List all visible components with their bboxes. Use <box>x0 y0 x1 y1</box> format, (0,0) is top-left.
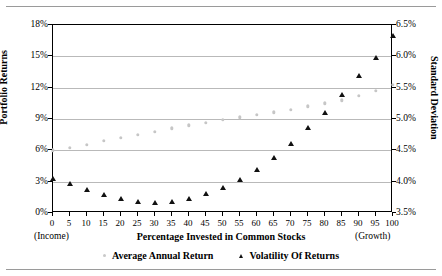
x-axis-note-income: (Income) <box>34 231 69 241</box>
y-axis-right-title: Standard Deviation <box>426 56 440 140</box>
x-axis-tick-label: 60 <box>252 218 261 228</box>
y-axis-right-tick-mark <box>392 55 396 56</box>
plot-area <box>52 24 392 212</box>
x-axis-tick-mark <box>69 212 70 216</box>
y-axis-right-tick-mark <box>392 87 396 88</box>
data-point-average-annual-return <box>272 111 275 114</box>
x-axis-note-growth: (Growth) <box>355 231 390 241</box>
y-axis-right-tick-label: 4.0% <box>396 176 416 186</box>
data-point-volatility-of-returns <box>288 141 294 146</box>
x-axis-tick-mark <box>358 212 359 216</box>
y-axis-right-tick-label: 6.0% <box>396 50 416 60</box>
y-axis-right-tick-mark <box>392 24 396 25</box>
x-axis-tick-mark <box>273 212 274 216</box>
y-axis-left-tick-mark <box>48 87 52 88</box>
y-axis-right-tick-label: 3.5% <box>396 207 416 217</box>
data-point-volatility-of-returns <box>220 185 226 190</box>
x-axis-tick-label: 70 <box>286 218 295 228</box>
x-axis-tick-label: 25 <box>133 218 142 228</box>
x-axis-tick-label: 50 <box>218 218 227 228</box>
bottom-divider-rule <box>6 269 436 270</box>
x-axis-tick-label: 10 <box>82 218 91 228</box>
y-axis-left-tick-mark <box>48 181 52 182</box>
data-point-average-annual-return <box>102 139 105 142</box>
x-axis-tick-mark <box>341 212 342 216</box>
data-point-average-annual-return <box>68 146 71 149</box>
y-axis-left-title: Portfolio Returns <box>0 50 12 125</box>
x-axis-tick-label: 20 <box>116 218 125 228</box>
data-point-average-annual-return <box>204 121 207 124</box>
y-axis-left-tick-mark <box>48 55 52 56</box>
x-axis-tick-label: 0 <box>50 218 55 228</box>
legend-item-average-annual-return: Average Annual Return <box>103 250 213 261</box>
x-axis-tick-label: 95 <box>371 218 380 228</box>
chart-legend: Average Annual Return Volatility Of Retu… <box>0 250 442 261</box>
x-axis-tick-mark <box>222 212 223 216</box>
triangle-marker-icon <box>239 254 243 258</box>
data-point-volatility-of-returns <box>390 33 396 38</box>
y-axis-left-tick-label: 18% <box>31 19 48 29</box>
y-axis-right-tick-label: 5.0% <box>396 113 416 123</box>
data-point-average-annual-return <box>119 136 122 139</box>
legend-label: Volatility Of Returns <box>249 250 339 261</box>
data-point-volatility-of-returns <box>237 177 243 182</box>
x-axis-tick-mark <box>239 212 240 216</box>
data-point-volatility-of-returns <box>186 196 192 201</box>
x-axis-tick-mark <box>86 212 87 216</box>
y-axis-left-tick-mark <box>48 24 52 25</box>
data-point-volatility-of-returns <box>254 167 260 172</box>
data-point-average-annual-return <box>323 102 326 105</box>
x-axis-tick-mark <box>205 212 206 216</box>
x-axis-tick-mark <box>375 212 376 216</box>
x-axis-tick-label: 85 <box>337 218 346 228</box>
data-point-volatility-of-returns <box>305 125 311 130</box>
data-point-average-annual-return <box>255 113 258 116</box>
x-axis-tick-label: 90 <box>354 218 363 228</box>
data-point-average-annual-return <box>187 124 190 127</box>
x-axis-tick-mark <box>154 212 155 216</box>
y-axis-left-tick-label: 6% <box>35 144 48 154</box>
data-point-average-annual-return <box>153 130 156 133</box>
data-point-volatility-of-returns <box>373 55 379 60</box>
x-axis-tick-label: 75 <box>303 218 312 228</box>
y-axis-left-tick-label: 15% <box>31 50 48 60</box>
legend-item-volatility-of-returns: Volatility Of Returns <box>239 250 339 261</box>
data-point-volatility-of-returns <box>169 199 175 204</box>
y-axis-left-tick-label: 12% <box>31 82 48 92</box>
data-point-volatility-of-returns <box>339 92 345 97</box>
data-point-average-annual-return <box>374 89 377 92</box>
y-axis-right-tick-label: 5.5% <box>396 82 416 92</box>
y-axis-right-tick-label: 4.5% <box>396 144 416 154</box>
gridline <box>53 56 391 57</box>
legend-label: Average Annual Return <box>112 250 213 261</box>
data-point-average-annual-return <box>357 94 360 97</box>
data-point-volatility-of-returns <box>135 199 141 204</box>
data-point-volatility-of-returns <box>203 191 209 196</box>
gridline <box>53 150 391 151</box>
gridline <box>53 88 391 89</box>
x-axis-tick-mark <box>137 212 138 216</box>
data-point-volatility-of-returns <box>271 155 277 160</box>
y-axis-left-tick-label: 3% <box>35 176 48 186</box>
x-axis-tick-mark <box>103 212 104 216</box>
gridline <box>53 182 391 183</box>
y-axis-right-tick-mark <box>392 118 396 119</box>
x-axis-tick-mark <box>392 212 393 216</box>
x-axis-tick-label: 40 <box>184 218 193 228</box>
x-axis-tick-label: 35 <box>167 218 176 228</box>
data-point-volatility-of-returns <box>152 200 158 205</box>
x-axis-tick-mark <box>171 212 172 216</box>
y-axis-right-tick-label: 6.5% <box>396 19 416 29</box>
y-axis-right-tick-mark <box>392 149 396 150</box>
data-point-average-annual-return <box>306 105 309 108</box>
data-point-average-annual-return <box>136 133 139 136</box>
top-divider-rule <box>6 6 436 7</box>
data-point-volatility-of-returns <box>118 196 124 201</box>
data-point-volatility-of-returns <box>67 181 73 186</box>
data-point-volatility-of-returns <box>356 73 362 78</box>
x-axis-tick-label: 30 <box>150 218 159 228</box>
x-axis-tick-label: 15 <box>99 218 108 228</box>
x-axis-tick-label: 55 <box>235 218 244 228</box>
chart-figure: Portfolio Returns Standard Deviation 0%3… <box>0 0 442 276</box>
data-point-average-annual-return <box>221 118 224 121</box>
